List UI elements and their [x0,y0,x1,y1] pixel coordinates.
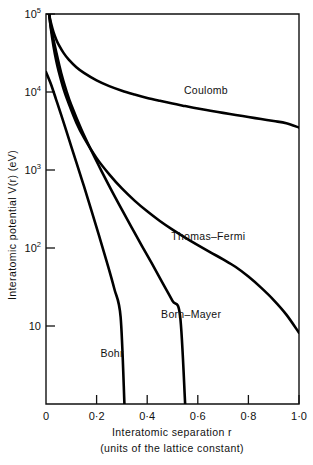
data-curves [46,14,299,404]
x-axis-tick-labels: 00·20·40·60·81·0 [43,410,307,422]
y-tick-label: 102 [25,240,41,254]
y-tick-label: 10 [29,320,41,332]
curve-label-born-mayer: Born–Mayer [161,308,221,320]
curve-label-coulomb: Coulomb [184,84,228,96]
x-tick-label: 1·0 [291,410,307,422]
x-tick-label: 0 [43,410,49,422]
y-axis-title: Interatomic potential V(r) (eV) [6,150,18,300]
x-tick-label: 0·4 [139,410,155,422]
curve-labels: CoulombThomas–FermiBorn–MayerBohr [100,84,245,359]
x-axis-ticks [97,395,299,404]
curve-coulomb [49,14,299,128]
interatomic-potential-chart: 10510410310210 00·20·40·60·81·0 CoulombT… [0,0,313,465]
x-axis-subtitle: (units of the lattice constant) [100,442,244,454]
y-tick-label: 103 [25,162,41,176]
x-tick-label: 0·2 [89,410,105,422]
x-tick-label: 0·6 [190,410,206,422]
x-axis-title: Interatomic separation r [112,426,232,438]
curve-born-mayer [49,14,185,404]
figure-container: 10510410310210 00·20·40·60·81·0 CoulombT… [0,0,313,465]
y-axis-tick-labels: 10510410310210 [25,6,41,332]
x-tick-label: 0·8 [240,410,256,422]
curve-label-bohr: Bohr [100,347,124,359]
y-tick-label: 104 [25,84,41,98]
y-tick-label: 105 [25,6,41,20]
curve-thomas-fermi [49,14,299,333]
y-axis-ticks [46,14,55,326]
curve-label-thomas-fermi: Thomas–Fermi [171,230,245,242]
